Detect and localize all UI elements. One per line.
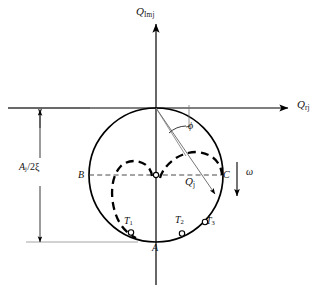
amplitude-label-tail: /2ξ <box>27 161 39 172</box>
y-axis-label: QImj <box>136 6 155 19</box>
x-axis-label-base: Q <box>297 98 305 110</box>
reference-radius-line <box>156 108 186 156</box>
y-axis-label-base: Q <box>136 5 144 17</box>
figure-root: QImj Qrj Aj/2ξ B C A Qj ϕ ω T1 T2 T3 <box>0 0 324 291</box>
marker-point-t2 <box>179 231 184 236</box>
amplitude-label: Aj/2ξ <box>19 162 39 173</box>
x-axis-label: Qrj <box>297 99 310 112</box>
marker-point-t1 <box>128 230 133 235</box>
phasor-label-sub: j <box>193 181 195 189</box>
omega-label: ω <box>246 167 253 177</box>
x-axis-label-sub: rj <box>305 104 310 112</box>
y-axis-label-sub: Imj <box>144 11 155 19</box>
marker-label-t1: T1 <box>124 216 133 227</box>
diagram-canvas <box>0 0 324 291</box>
point-label-a: A <box>152 243 158 253</box>
marker-label-t3-sub: 3 <box>212 219 216 226</box>
marker-label-t1-sub: 1 <box>130 219 134 226</box>
marker-label-t3: T3 <box>206 216 215 227</box>
point-label-b: B <box>78 170 84 180</box>
marker-label-t2-sub: 2 <box>181 218 185 225</box>
point-label-c: C <box>223 170 230 180</box>
phasor-label-base: Q <box>185 175 193 187</box>
angle-label-phi: ϕ <box>188 121 193 131</box>
phasor-label-qj: Qj <box>185 176 195 189</box>
marker-label-t2: T2 <box>175 215 184 226</box>
